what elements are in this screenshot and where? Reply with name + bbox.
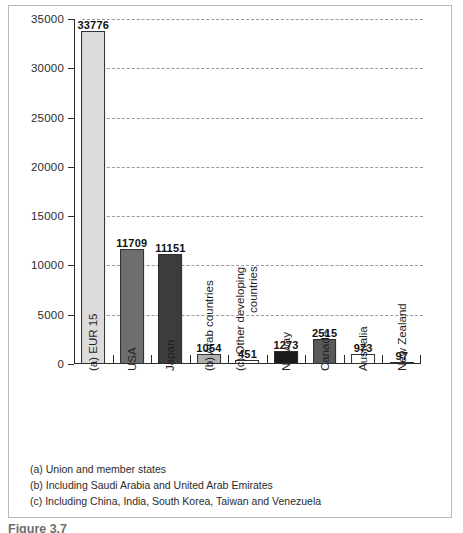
x-tick <box>74 355 75 364</box>
bar-slot: 33776(a) EUR 15 <box>74 19 113 364</box>
x-tick <box>190 355 191 364</box>
x-tick <box>305 355 306 364</box>
x-axis-category-label: Australia <box>357 326 370 371</box>
bar-slot: 1054(b) Arab countries <box>190 19 229 364</box>
x-axis-category-label: (b) Arab countries <box>202 280 215 371</box>
x-axis-category-label: New Zealand <box>395 303 408 371</box>
x-axis-category-label: Canada <box>318 331 331 371</box>
bar-slot: 2515Canada <box>305 19 344 364</box>
figure-caption: Figure 3.7 <box>8 522 458 533</box>
y-axis-label-35000: 35000 <box>31 13 64 25</box>
bar-value-label: 11151 <box>155 242 185 254</box>
x-tick <box>113 355 114 364</box>
bars-group: 33776(a) EUR 1511709USA11151Japan1054(b)… <box>74 19 421 364</box>
y-axis-label-15000: 15000 <box>31 210 64 222</box>
y-axis-label-20000: 20000 <box>31 161 64 173</box>
x-tick <box>382 355 383 364</box>
footnote-a: (a) Union and member states <box>30 462 410 478</box>
x-tick <box>420 355 421 364</box>
figure-frame: 05000100001500020000250003000035000 3377… <box>8 5 452 518</box>
x-tick <box>151 355 152 364</box>
y-axis-label-5000: 5000 <box>38 309 64 321</box>
bar-slot: 97New Zealand <box>382 19 421 364</box>
footnote-b: (b) Including Saudi Arabia and United Ar… <box>30 478 410 494</box>
bar-value-label: 11709 <box>116 237 147 249</box>
bar-slot: 1273Norway <box>267 19 306 364</box>
bar-slot: 451(c) Other developingcountries <box>228 19 267 364</box>
x-tick <box>267 355 268 364</box>
y-axis-label-10000: 10000 <box>31 259 64 271</box>
y-tick-0 <box>68 364 74 365</box>
bar-value-label: 33776 <box>77 19 109 31</box>
x-axis-category-label: (a) EUR 15 <box>87 313 100 371</box>
y-axis-label-30000: 30000 <box>31 62 64 74</box>
bar-slot: 11151Japan <box>151 19 190 364</box>
bar-slot: 973Australia <box>344 19 383 364</box>
x-axis-category-label-line2: countries <box>247 267 260 371</box>
footnotes-group: (a) Union and member states (b) Includin… <box>30 462 410 510</box>
footnote-c: (c) Including China, India, South Korea,… <box>30 494 410 510</box>
bar-slot: 11709USA <box>113 19 152 364</box>
x-tick <box>344 355 345 364</box>
x-axis-category-label: USA <box>125 347 138 371</box>
x-axis-category-label: (c) Other developingcountries <box>235 267 261 371</box>
x-axis-category-label: Japan <box>164 340 177 371</box>
y-axis-label-25000: 25000 <box>31 112 64 124</box>
x-axis-category-label: Norway <box>280 332 293 371</box>
y-axis-label-0: 0 <box>57 358 64 370</box>
chart-plot-area: 05000100001500020000250003000035000 3377… <box>74 19 421 364</box>
x-tick <box>228 355 229 364</box>
